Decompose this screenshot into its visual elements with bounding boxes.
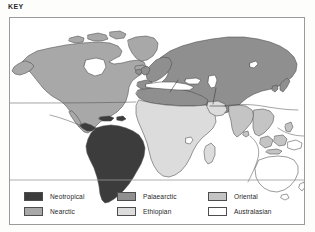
swatch-ethiopian <box>117 207 136 216</box>
legend-entry-ethiopian: Ethiopian <box>117 205 177 217</box>
legend-column-2: Palaearctic Ethiopian <box>117 190 177 220</box>
swatch-palaearctic <box>117 192 136 201</box>
swatch-nearctic <box>24 207 43 216</box>
legend-entry-neotropical: Neotropical <box>24 190 84 202</box>
legend-label-palaearctic: Palaearctic <box>143 193 177 200</box>
legend-label-ethiopian: Ethiopian <box>143 208 171 215</box>
legend-entry-australasian: Australasian <box>208 205 272 217</box>
swatch-neotropical <box>24 192 43 201</box>
legend-entry-nearctic: Nearctic <box>24 205 84 217</box>
legend-label-oriental: Oriental <box>234 193 258 200</box>
legend-label-neotropical: Neotropical <box>50 193 84 200</box>
black-sea <box>185 78 201 84</box>
map-frame: Neotropical Nearctic Palaearctic Ethiopi… <box>9 17 305 225</box>
legend-column-3: Oriental Australasian <box>208 190 272 220</box>
biogeographic-regions-figure: KEY <box>0 0 315 232</box>
legend-column-1: Neotropical Nearctic <box>24 190 84 220</box>
swatch-australasian <box>208 207 227 216</box>
legend-entry-palaearctic: Palaearctic <box>117 190 177 202</box>
legend-label-nearctic: Nearctic <box>50 208 75 215</box>
key-title: KEY <box>8 3 24 10</box>
region-oriental-java <box>266 149 282 154</box>
legend-entry-oriental: Oriental <box>208 190 272 202</box>
legend-label-australasian: Australasian <box>234 208 272 215</box>
map-legend: Neotropical Nearctic Palaearctic Ethiopi… <box>10 180 304 224</box>
swatch-oriental <box>208 192 227 201</box>
